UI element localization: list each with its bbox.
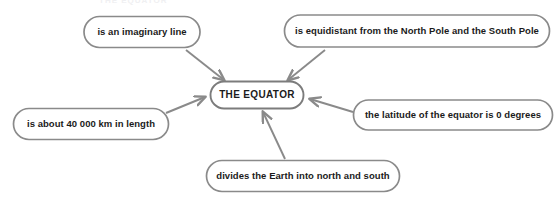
node-equidistant-poles[interactable]: is equidistant from the North Pole and t… [285,15,550,47]
node-equidistant-poles-label: is equidistant from the North Pole and t… [295,25,539,36]
arrow-divides-to-equator [263,112,285,159]
node-imaginary-line-label: is an imaginary line [97,26,186,37]
arrow-latitude-to-equator [310,99,353,112]
node-divides-earth-label: divides the Earth into north and south [216,170,390,181]
node-imaginary-line[interactable]: is an imaginary line [84,17,200,48]
node-divides-earth[interactable]: divides the Earth into north and south [207,161,400,192]
concept-map-diagram: THE EQUATOR is an imaginary line is equi… [0,0,555,197]
node-center-equator-label: THE EQUATOR [219,89,295,100]
node-latitude-zero[interactable]: the latitude of the equator is 0 degrees [354,100,553,130]
node-length-40000km-label: is about 40 000 km in length [27,118,155,129]
arrow-imaginary-line-to-equator [186,50,224,80]
node-length-40000km[interactable]: is about 40 000 km in length [14,109,169,140]
diagram-canvas: is an imaginary line is equidistant from… [0,0,555,197]
arrow-equidistant-to-equator [288,50,325,80]
node-latitude-zero-label: the latitude of the equator is 0 degrees [365,109,541,120]
arrow-length-to-equator [166,97,205,113]
node-center-equator[interactable]: THE EQUATOR [211,82,304,109]
